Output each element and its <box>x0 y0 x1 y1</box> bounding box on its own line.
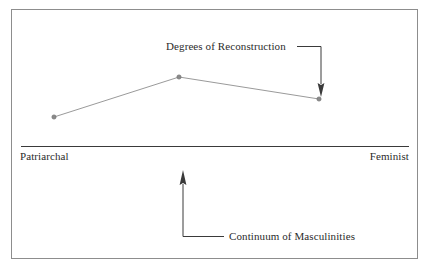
axis-label-patriarchal: Patriarchal <box>20 150 69 163</box>
figure-root: Degrees of Reconstruction Continuum of M… <box>0 0 428 272</box>
continuum-leader-line <box>183 184 224 237</box>
data-point-marker-3 <box>317 97 321 101</box>
continuum-arrowhead-icon <box>180 170 187 185</box>
data-point-marker-2 <box>177 75 181 79</box>
degrees-leader-line <box>297 47 321 85</box>
degrees-arrowhead-icon <box>318 83 325 97</box>
series-line-degrees-of-reconstruction <box>54 77 319 117</box>
degrees-of-reconstruction-label: Degrees of Reconstruction <box>166 40 286 53</box>
axis-label-feminist: Feminist <box>360 150 409 163</box>
continuum-of-masculinities-label: Continuum of Masculinities <box>229 230 355 243</box>
data-point-marker-1 <box>52 115 56 119</box>
